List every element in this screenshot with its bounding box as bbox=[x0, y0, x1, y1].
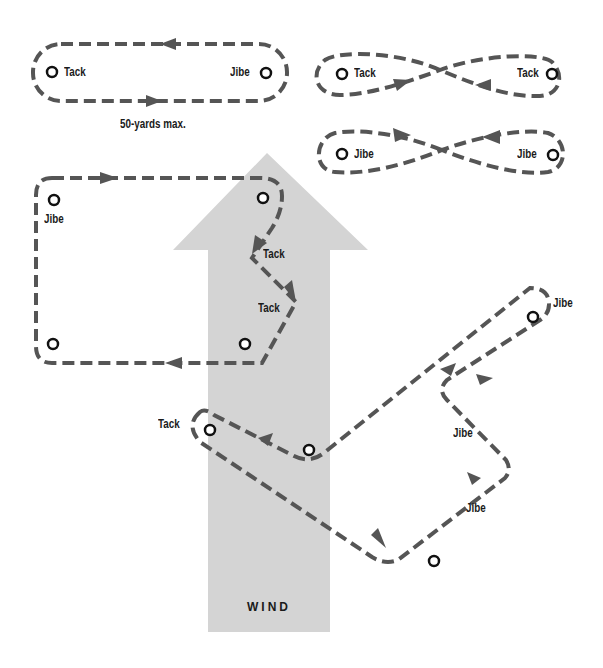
jibe-mark-right bbox=[548, 150, 558, 160]
tack-mark bbox=[47, 67, 57, 77]
figure8-tack-left-label: Tack bbox=[354, 67, 376, 79]
mark bbox=[429, 556, 439, 566]
arrow-right-icon bbox=[146, 95, 162, 107]
arrow-up-right-icon bbox=[476, 374, 493, 385]
oval-caption: 50-yards max. bbox=[120, 118, 186, 130]
tack-mark bbox=[205, 425, 215, 435]
tack-mark-right bbox=[547, 69, 557, 79]
arrow-left-icon bbox=[160, 38, 176, 50]
figure8-jibe-right-label: Jibe bbox=[517, 148, 537, 160]
arrow-icon bbox=[482, 130, 500, 144]
arrow-down-left-icon bbox=[440, 363, 456, 376]
box-tack1-label: Tack bbox=[263, 248, 285, 260]
arrow-left-icon bbox=[165, 357, 182, 369]
figure8-jibe-left-label: Jibe bbox=[354, 148, 374, 160]
zigzag-tack-label: Tack bbox=[158, 418, 180, 430]
oval-jibe-label: Jibe bbox=[230, 66, 250, 78]
jibe-mark bbox=[528, 312, 538, 322]
drill-diagram bbox=[0, 0, 603, 668]
box-jibe-label: Jibe bbox=[44, 213, 64, 225]
arrow-icon bbox=[393, 128, 411, 142]
zigzag-jibe-lower-label: Jibe bbox=[466, 502, 486, 514]
arrow-icon bbox=[393, 79, 411, 91]
zigzag-jibe-top-label: Jibe bbox=[553, 297, 573, 309]
arrow-icon bbox=[475, 79, 491, 91]
jibe-mark bbox=[49, 195, 59, 205]
oval-tack-label: Tack bbox=[64, 66, 86, 78]
arrow-right-icon bbox=[100, 172, 118, 184]
wind-label: WIND bbox=[247, 601, 291, 613]
mark bbox=[48, 339, 58, 349]
zigzag-jibe-middle-label: Jibe bbox=[453, 427, 473, 439]
tack-mark-left bbox=[337, 69, 347, 79]
box-tack2-label: Tack bbox=[258, 302, 280, 314]
arrow-up-left-icon bbox=[467, 472, 481, 485]
jibe-mark bbox=[261, 68, 271, 78]
wind-arrow-icon bbox=[173, 153, 368, 632]
jibe-mark-left bbox=[337, 149, 347, 159]
mark bbox=[240, 339, 250, 349]
mark bbox=[304, 445, 314, 455]
figure8-tack-right-label: Tack bbox=[517, 67, 539, 79]
arrow-down-right-icon bbox=[371, 528, 386, 548]
mark bbox=[258, 193, 268, 203]
